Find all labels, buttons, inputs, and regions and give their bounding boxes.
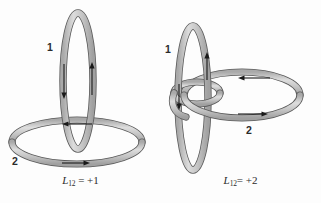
loop2-coil-back — [174, 72, 300, 95]
caption-subscript: 12 — [230, 179, 237, 188]
diagram-panel-left: 1 2 L12 = +1 — [0, 0, 161, 203]
loop2-back-segment — [12, 120, 142, 142]
loop1-label: 1 — [165, 44, 171, 55]
double-linked-rings-l2-svg — [160, 0, 321, 175]
diagram-panel-right: 1 2 L12= +2 — [160, 0, 321, 203]
caption-value: +1 — [87, 174, 99, 186]
caption-equals: = — [237, 174, 243, 186]
caption-right: L12= +2 — [160, 174, 321, 188]
loop2-coil-front — [173, 93, 301, 118]
loop2-label: 2 — [12, 156, 18, 167]
caption-equals: = — [78, 174, 84, 186]
loop1-vertical-ring — [63, 13, 93, 149]
loop1-label: 1 — [47, 42, 53, 53]
caption-subscript: 12 — [68, 179, 75, 188]
loop2-label: 2 — [246, 125, 252, 136]
linking-number-figure: 1 2 L12 = +1 — [0, 0, 321, 203]
caption-value: +2 — [246, 174, 258, 186]
caption-left: L12 = +1 — [0, 174, 161, 188]
linked-rings-l1-svg — [0, 0, 161, 175]
